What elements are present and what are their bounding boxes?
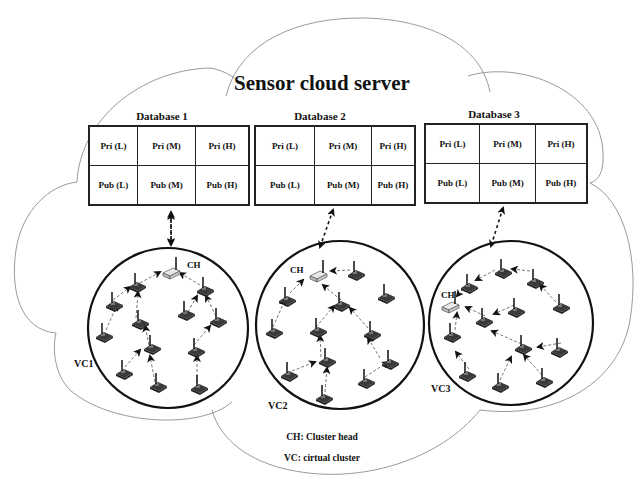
- cluster-head-vc3-label: CH: [441, 290, 455, 300]
- database-3-label: Database 3: [464, 108, 524, 120]
- cluster-head-vc2: [310, 260, 327, 282]
- database-1-label: Database 1: [132, 110, 192, 122]
- cluster-vc1-nodes: [96, 273, 227, 395]
- db3-cell: Pub (M): [480, 164, 536, 204]
- db2-cell: Pri (L): [255, 126, 315, 166]
- db1-cell: Pri (H): [196, 126, 250, 166]
- db3-cell: Pri (M): [480, 124, 536, 164]
- db1-cell: Pub (L): [89, 166, 138, 206]
- cluster-vc3-nodes: [444, 259, 570, 393]
- db3-cell: Pub (L): [425, 164, 480, 204]
- legend-virtual-cluster: VC: cirtual cluster: [0, 453, 644, 463]
- db2-cell: Pri (H): [372, 126, 416, 166]
- db3-cell: Pri (H): [536, 124, 588, 164]
- cluster-vc1-label: VC1: [74, 358, 93, 369]
- legend-cluster-head: CH: Cluster head: [0, 432, 644, 442]
- cluster-vc3-label: VC3: [431, 383, 450, 394]
- database-2-label: Database 2: [290, 110, 350, 122]
- db3-cell: Pri (L): [425, 124, 480, 164]
- cluster-vc2-label: VC2: [268, 400, 287, 411]
- cluster-vc2-nodes: [266, 261, 399, 405]
- link-db3-vc3-arrow: [491, 208, 503, 246]
- db1-cell: Pri (M): [138, 126, 196, 166]
- database-2-table: Pri (L) Pri (M) Pri (H) Pub (L) Pub (M) …: [254, 125, 416, 206]
- db2-cell: Pub (M): [315, 166, 372, 206]
- diagram-title: Sensor cloud server: [0, 71, 644, 96]
- db1-cell: Pub (M): [138, 166, 196, 206]
- cluster-head-vc1-label: CH: [187, 260, 201, 270]
- db1-cell: Pri (L): [89, 126, 138, 166]
- cluster-head-vc2-label: CH: [290, 265, 304, 275]
- cluster-vc3-boundary: [429, 241, 593, 405]
- db3-cell: Pub (H): [536, 164, 588, 204]
- db2-cell: Pub (L): [255, 166, 315, 206]
- cluster-head-vc1: [163, 257, 180, 279]
- database-1-table: Pri (L) Pri (M) Pri (H) Pub (L) Pub (M) …: [88, 125, 250, 206]
- db2-cell: Pub (H): [372, 166, 416, 206]
- cluster-vc2-boundary: [256, 241, 424, 409]
- db1-cell: Pub (H): [196, 166, 250, 206]
- db2-cell: Pri (M): [315, 126, 372, 166]
- database-3-table: Pri (L) Pri (M) Pri (H) Pub (L) Pub (M) …: [424, 123, 588, 204]
